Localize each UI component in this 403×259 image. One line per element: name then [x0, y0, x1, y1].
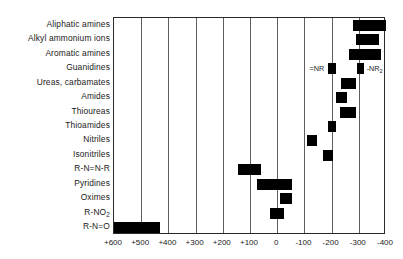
gridline — [196, 18, 197, 233]
x-axis-tick-label: -200 — [323, 238, 339, 247]
category-label: R-N=N-R — [2, 164, 110, 173]
chemical-shift-range-chart: Aliphatic aminesAlkyl ammonium ionsAroma… — [0, 0, 403, 259]
x-axis-tick-label: +300 — [186, 238, 204, 247]
category-label: Oximes — [2, 193, 110, 202]
x-axis-tick-label: -100 — [295, 238, 311, 247]
range-bar — [114, 222, 160, 233]
category-label: Pyridines — [2, 179, 110, 188]
bar-annotation: -NR2 — [367, 65, 383, 73]
category-label: Isonitriles — [2, 150, 110, 159]
x-axis-tick-label: -300 — [350, 238, 366, 247]
range-bar — [328, 121, 336, 132]
category-label: Guanidines — [2, 63, 110, 72]
range-bar — [336, 92, 347, 103]
category-label-column: Aliphatic aminesAlkyl ammonium ionsAroma… — [0, 0, 110, 259]
gridline — [223, 18, 224, 233]
x-axis-tick-label: +600 — [104, 238, 122, 247]
range-bar — [349, 49, 380, 60]
gridline — [168, 18, 169, 233]
gridline — [277, 18, 278, 233]
category-label: Thioureas — [2, 107, 110, 116]
x-axis-tick-label: -400 — [377, 238, 393, 247]
range-bar — [257, 179, 292, 190]
range-bar — [341, 78, 356, 89]
category-label: R-N=O — [2, 222, 110, 231]
range-bar — [270, 208, 284, 219]
range-bar — [353, 20, 386, 31]
range-bar — [328, 63, 336, 74]
x-axis-tick-label: +500 — [131, 238, 149, 247]
range-bar — [357, 63, 364, 74]
gridline — [250, 18, 251, 233]
category-label: Amides — [2, 92, 110, 101]
category-label: Alkyl ammonium ions — [2, 34, 110, 43]
category-label: Ureas, carbamates — [2, 78, 110, 87]
x-axis-tick-label: +100 — [240, 238, 258, 247]
range-bar — [323, 150, 333, 161]
x-axis-tick-label: +200 — [213, 238, 231, 247]
category-label: Thioamides — [2, 121, 110, 130]
category-label: R-NO2 — [2, 208, 110, 217]
gridline — [304, 18, 305, 233]
category-label: Nitriles — [2, 135, 110, 144]
range-bar — [280, 193, 292, 204]
x-axis: +600+500+400+300+200+1000-100-200-300-40… — [113, 236, 385, 256]
range-bar — [340, 107, 356, 118]
range-bar — [307, 135, 317, 146]
plot-area: =NR-NR2 — [113, 17, 385, 234]
category-label: Aliphatic amines — [2, 20, 110, 29]
range-bar — [356, 34, 379, 45]
gridline — [141, 18, 142, 233]
range-bar — [238, 164, 261, 175]
x-axis-tick-label: +400 — [158, 238, 176, 247]
category-label: Aromatic amines — [2, 49, 110, 58]
bar-annotation: =NR — [310, 65, 325, 73]
x-axis-tick-label: 0 — [274, 238, 278, 247]
